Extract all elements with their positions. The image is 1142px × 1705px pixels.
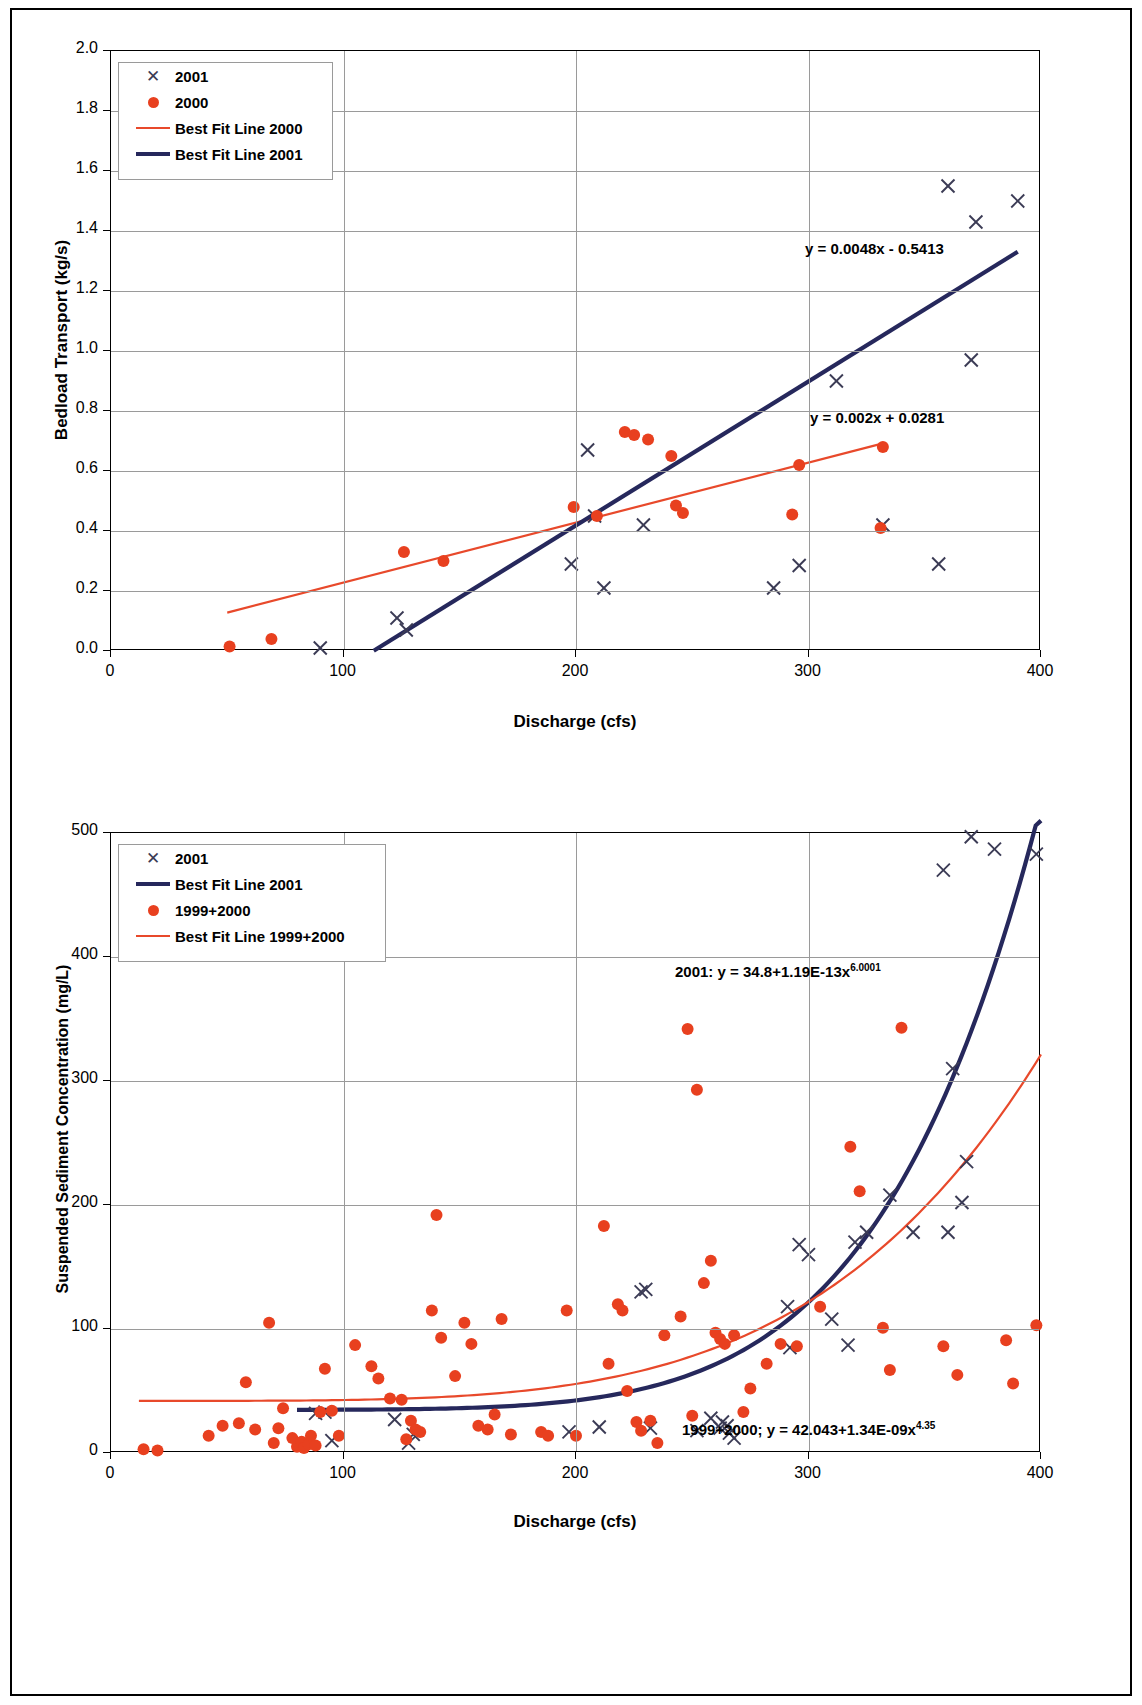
y-tick-label: 0 [32,1441,98,1459]
legend-label: Best Fit Line 2001 [175,146,303,163]
legend-item: Best Fit Line 1999+2000 [119,923,385,949]
data-point [937,1340,949,1352]
x-tick-mark [110,650,111,657]
data-point [642,434,654,446]
data-point [744,1383,756,1395]
legend-label: Best Fit Line 1999+2000 [175,928,345,945]
data-point [426,1304,438,1316]
annotation-text: 1999+2000; y = 42.043+1.34E-09x [682,1421,916,1438]
y-tick-label: 1.8 [32,99,98,117]
line-marker-icon [131,935,175,937]
y-tick-label: 0.0 [32,639,98,657]
bedload-legend: ✕20012000Best Fit Line 2000Best Fit Line… [118,62,333,180]
data-point [677,507,689,519]
legend-label: 2001 [175,68,208,85]
legend-item: 1999+2000 [119,897,385,923]
legend-item: ✕2001 [119,845,385,871]
y-tick-mark [103,530,110,531]
y-tick-mark [103,1204,110,1205]
data-point [884,1364,896,1376]
data-point [152,1445,164,1457]
data-point [775,1338,787,1350]
dot-marker-icon [131,97,175,108]
line-marker-icon [131,127,175,129]
x-tick-label: 0 [70,1464,150,1482]
legend-item: Best Fit Line 2001 [119,141,332,167]
y-tick-label: 1.6 [32,159,98,177]
legend-item: ✕2001 [119,63,332,89]
line-marker-icon [131,882,175,886]
x-tick-mark [575,650,576,657]
y-tick-mark [103,956,110,957]
data-point [698,1277,710,1289]
y-tick-label: 0.6 [32,459,98,477]
y-tick-label: 300 [32,1069,98,1087]
chart-ssc: Suspended Sediment Concentration (mg/L) … [0,810,1142,1570]
data-point [319,1363,331,1375]
y-tick-mark [103,1452,110,1453]
data-point [349,1339,361,1351]
x-tick-label: 100 [303,1464,383,1482]
y-tick-mark [103,110,110,111]
x-tick-mark [575,1452,576,1459]
gridline [344,51,345,649]
data-point [365,1360,377,1372]
gridline [111,351,1039,352]
y-tick-label: 2.0 [32,39,98,57]
gridline [111,591,1039,592]
data-point [314,1406,326,1418]
x-tick-mark [343,1452,344,1459]
data-point [272,1422,284,1434]
series-2001 [309,830,1043,1449]
data-point [617,1304,629,1316]
data-point [621,1385,633,1397]
ssc-x-axis-title: Discharge (cfs) [110,1512,1040,1532]
gridline [111,1205,1039,1206]
data-point [1000,1334,1012,1346]
data-point [814,1301,826,1313]
ssc-annotation-1999-2000: 1999+2000; y = 42.043+1.34E-09x4.35 [682,1420,935,1438]
data-point [896,1022,908,1034]
gridline [576,51,577,649]
legend-item: Best Fit Line 2000 [119,115,332,141]
series-1999-2000 [138,1022,1043,1457]
data-point [854,1185,866,1197]
data-point [398,546,410,558]
data-point [224,641,236,653]
data-point [396,1394,408,1406]
y-tick-mark [103,290,110,291]
data-point [326,1405,338,1417]
y-tick-label: 1.4 [32,219,98,237]
legend-item: Best Fit Line 2001 [119,871,385,897]
fit-line [227,443,883,612]
data-point [737,1406,749,1418]
y-tick-label: 0.4 [32,519,98,537]
x-tick-label: 300 [768,1464,848,1482]
data-point [458,1317,470,1329]
legend-item: 2000 [119,89,332,115]
y-tick-label: 200 [32,1193,98,1211]
x-tick-label: 400 [1000,662,1080,680]
data-point [449,1370,461,1382]
y-tick-mark [103,1328,110,1329]
x-marker-icon: ✕ [131,68,175,85]
data-point [505,1428,517,1440]
gridline [111,231,1039,232]
data-point [877,1322,889,1334]
gridline [111,1081,1039,1082]
data-point [875,522,887,534]
legend-label: Best Fit Line 2000 [175,120,303,137]
data-point [644,1415,656,1427]
data-point [651,1437,663,1449]
data-point [844,1141,856,1153]
data-point [877,441,889,453]
x-tick-mark [808,650,809,657]
dot-marker-icon [131,905,175,916]
y-tick-mark [103,50,110,51]
data-point [277,1402,289,1414]
data-point [603,1358,615,1370]
data-point [786,509,798,521]
x-tick-label: 400 [1000,1464,1080,1482]
x-marker-icon: ✕ [131,850,175,867]
data-point [372,1373,384,1385]
